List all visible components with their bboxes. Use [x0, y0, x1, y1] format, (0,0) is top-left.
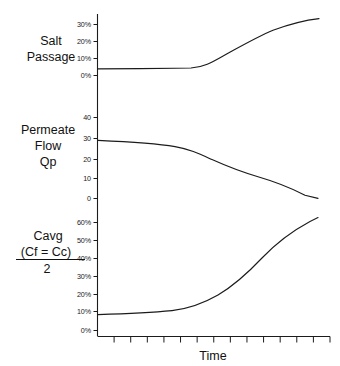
ytick-label-cavg-50: 50%	[77, 236, 92, 245]
ytick-label-cavg-10: 10%	[77, 307, 92, 316]
curve-permeate-flow	[98, 140, 318, 198]
panel-label-cavg-numerator: Cavg	[33, 229, 62, 243]
panel-permeate-flow: 40 30 20 10 0 Permeate Flow Qp	[21, 113, 318, 203]
ytick-label-salt-0: 0%	[81, 71, 92, 80]
ytick-label-qp-30: 30	[83, 134, 91, 143]
panel-cavg: 60% 50% 40% 30% 20% 10% 0% Cavg (Cf = Cc…	[16, 218, 318, 335]
x-axis-ticks	[114, 337, 330, 343]
panel-label-qp-line1: Permeate	[21, 123, 75, 137]
ytick-label-qp-0: 0	[87, 194, 91, 203]
panel-salt-passage: 30% 20% 10% 0% Salt Passage	[27, 19, 319, 80]
ytick-label-cavg-60: 60%	[77, 218, 92, 227]
ytick-label-cavg-40: 40%	[77, 254, 92, 263]
ytick-label-salt-10: 10%	[77, 54, 92, 63]
ytick-label-qp-40: 40	[83, 113, 91, 122]
panel-label-qp-line3: Qp	[40, 155, 57, 169]
panel-label-salt-line2: Passage	[27, 50, 76, 64]
ytick-label-salt-30: 30%	[77, 20, 92, 29]
x-axis-title: Time	[199, 349, 226, 363]
ytick-label-cavg-20: 20%	[77, 290, 92, 299]
panel-label-cavg-middle: (Cf = Cc)	[21, 245, 71, 259]
curve-cavg	[98, 218, 318, 315]
panel-label-cavg-denominator: 2	[44, 262, 51, 276]
ytick-label-qp-20: 20	[83, 155, 91, 164]
ytick-label-salt-20: 20%	[77, 37, 92, 46]
ytick-label-cavg-0: 0%	[81, 326, 92, 335]
ytick-label-cavg-30: 30%	[77, 272, 92, 281]
chart-figure: 30% 20% 10% 0% Salt Passage 40 30 20 10 …	[0, 0, 340, 366]
ytick-label-qp-10: 10	[83, 174, 91, 183]
x-axis: Time	[98, 337, 331, 364]
panel-label-qp-line2: Flow	[35, 139, 62, 153]
panel-label-salt-line1: Salt	[40, 34, 62, 48]
curve-salt-passage	[98, 19, 319, 69]
